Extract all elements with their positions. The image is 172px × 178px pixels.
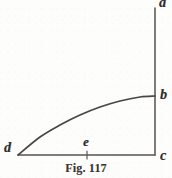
- point-label-b: b: [160, 88, 167, 102]
- point-label-d: d: [4, 141, 11, 155]
- figure-caption: Fig. 117: [0, 161, 172, 176]
- figure-117: a b c d e Fig. 117: [0, 0, 172, 178]
- point-label-a: a: [159, 0, 166, 10]
- point-label-e: e: [83, 135, 89, 148]
- figure-drawing: [0, 0, 172, 178]
